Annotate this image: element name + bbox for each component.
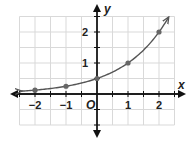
x-tick-label: −2 bbox=[29, 99, 42, 111]
x-tick-label: 1 bbox=[125, 99, 131, 111]
x-tick-label: 2 bbox=[156, 99, 162, 111]
y-axis-label: y bbox=[103, 2, 112, 16]
y-tick-label: 2 bbox=[82, 26, 88, 38]
data-point bbox=[125, 60, 130, 65]
data-point bbox=[156, 29, 161, 34]
data-point bbox=[32, 88, 37, 93]
data-point bbox=[94, 76, 99, 81]
x-axis-label: x bbox=[177, 78, 186, 92]
exponential-graph: x y O −2−11212 bbox=[0, 0, 193, 143]
data-point bbox=[63, 84, 68, 89]
exponential-curve bbox=[21, 18, 168, 91]
axis-labels: x y O −2−11212 bbox=[29, 2, 186, 112]
axes bbox=[12, 6, 184, 136]
origin-label: O bbox=[86, 98, 96, 112]
y-tick-label: 1 bbox=[82, 57, 88, 69]
x-tick-label: −1 bbox=[60, 99, 73, 111]
